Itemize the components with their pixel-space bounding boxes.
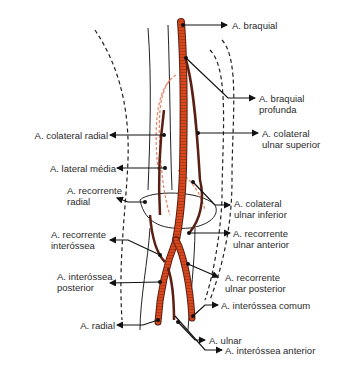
label-line: A. recorrente: [51, 229, 106, 240]
label-a-recorrente-radial: A. recorrente radial: [67, 185, 122, 207]
label-line: interóssea: [51, 240, 106, 251]
label-a-interossea-comum: A. interóssea comum: [221, 300, 310, 311]
label-line: ulnar inferior: [234, 209, 287, 220]
label-a-braquial-profunda: A. braquial profunda: [259, 93, 304, 115]
label-a-recorrente-ulnar-anterior: A. recorrente ulnar anterior: [233, 228, 289, 250]
label-line: A. colateral: [234, 198, 287, 209]
label-a-recorrente-interossea: A. recorrente interóssea: [51, 229, 106, 251]
label-a-colateral-ulnar-inferior: A. colateral ulnar inferior: [234, 198, 287, 220]
label-a-colateral-radial: A. colateral radial: [35, 130, 108, 141]
label-a-recorrente-ulnar-posterior: A. recorrente ulnar posterior: [225, 272, 286, 294]
label-line: A. recorrente: [225, 272, 286, 283]
label-line: A. colateral: [262, 128, 320, 139]
label-line: profunda: [259, 104, 304, 115]
artery-illustration: [0, 0, 337, 370]
collateral-branches: [150, 60, 202, 320]
label-a-braquial: A. braquial: [232, 20, 277, 31]
humerus-outline: [140, 25, 216, 330]
label-line: A. braquial: [259, 93, 304, 104]
label-a-lateral-media: A. lateral média: [50, 163, 116, 174]
elbow-arteries-diagram: A. braquial A. braquial profunda A. cola…: [0, 0, 337, 370]
label-a-colateral-ulnar-superior: A. colateral ulnar superior: [262, 128, 320, 150]
label-line: A. interóssea: [57, 271, 112, 282]
label-a-radial: A. radial: [80, 320, 115, 331]
label-line: radial: [67, 196, 122, 207]
label-a-interossea-posterior: A. interóssea posterior: [57, 271, 112, 293]
label-line: ulnar anterior: [233, 239, 289, 250]
label-line: A. recorrente: [67, 185, 122, 196]
label-line: posterior: [57, 282, 112, 293]
label-line: ulnar posterior: [225, 283, 286, 294]
label-a-interossea-anterior: A. interóssea anterior: [225, 345, 315, 356]
label-line: A. recorrente: [233, 228, 289, 239]
label-line: ulnar superior: [262, 139, 320, 150]
